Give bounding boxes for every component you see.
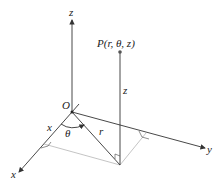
radius-label: r xyxy=(99,125,104,137)
x-axis xyxy=(19,112,72,172)
theta-label: θ xyxy=(65,127,71,139)
x-axis-backstub xyxy=(72,104,79,112)
right-angle-mark-foot xyxy=(115,154,120,159)
point-p-label: P(r, θ, z) xyxy=(96,37,135,50)
y-axis-label: y xyxy=(206,143,212,155)
z-axis-label: z xyxy=(68,6,74,18)
origin-label: O xyxy=(62,99,70,111)
x-projection-dashed xyxy=(44,144,120,165)
radius-line xyxy=(72,112,120,165)
x-axis-label: x xyxy=(10,168,16,180)
height-label: z xyxy=(122,84,128,96)
cylindrical-coordinates-diagram: z y x O r z P(r, θ, z) θ x xyxy=(0,0,220,189)
point-p xyxy=(118,50,122,54)
y-projection-dashed xyxy=(120,133,146,165)
x-component-label: x xyxy=(46,121,52,133)
